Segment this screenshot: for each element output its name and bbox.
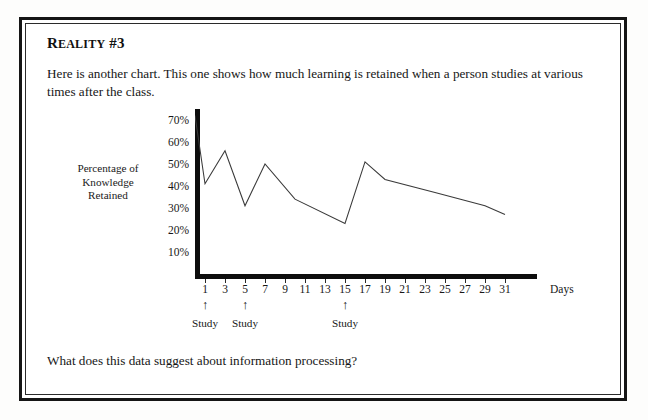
study-label: Study [332, 317, 358, 329]
y-axis-tick-label: 40% [168, 180, 189, 192]
y-axis-tick-labels: 70%60%50%40%30%20%10% [149, 107, 189, 277]
page-title-initial: R [47, 35, 58, 51]
y-axis-tick-label: 10% [168, 246, 189, 258]
x-axis-tick-label: 9 [282, 283, 288, 295]
y-axis-tick-label: 50% [168, 158, 189, 170]
y-axis-title-line-2: Knowledge [67, 176, 149, 190]
up-arrow-icon: ↑ [342, 299, 348, 311]
study-label: Study [192, 317, 218, 329]
y-axis-tick-label: 20% [168, 224, 189, 236]
y-axis-tick-label: 30% [168, 202, 189, 214]
x-axis-title: Days [550, 283, 574, 295]
retention-line-chart: Percentage of Knowledge Retained 70%60%5… [45, 107, 575, 337]
x-axis-tick-label: 25 [439, 283, 451, 295]
up-arrow-icon: ↑ [202, 299, 208, 311]
x-axis-tick-label: 19 [379, 283, 391, 295]
plot-area [195, 107, 540, 279]
worksheet-page: REALITY #3 Here is another chart. This o… [0, 0, 648, 420]
x-axis-tick-label: 21 [399, 283, 411, 295]
y-axis-title-line-3: Retained [67, 189, 149, 203]
page-title-smallcaps: EALITY [58, 37, 105, 51]
x-axis-tick-label: 5 [242, 283, 248, 295]
y-axis-title: Percentage of Knowledge Retained [67, 162, 149, 203]
y-axis-tick-label: 60% [168, 136, 189, 148]
x-axis-tick-label: 1 [202, 283, 208, 295]
discussion-question: What does this data suggest about inform… [47, 353, 587, 369]
study-event-annotations: ↑Study↑Study↑Study [195, 299, 575, 339]
x-axis-tick-label: 29 [479, 283, 491, 295]
x-axis-tick-label: 17 [359, 283, 371, 295]
retention-line-series [195, 107, 540, 279]
x-axis-tick-label: 7 [262, 283, 268, 295]
x-axis-tick-label: 31 [499, 283, 511, 295]
page-content: REALITY #3 Here is another chart. This o… [25, 23, 621, 395]
x-axis-tick-label: 11 [299, 283, 310, 295]
x-axis-tick-labels: Days 135791113151719212325272931 [195, 283, 575, 299]
page-title-number: #3 [105, 35, 124, 51]
up-arrow-icon: ↑ [242, 299, 248, 311]
intro-paragraph: Here is another chart. This one shows ho… [47, 65, 587, 100]
page-title: REALITY #3 [47, 35, 125, 52]
x-axis-tick-label: 27 [459, 283, 471, 295]
x-axis-tick-label: 23 [419, 283, 431, 295]
x-axis-tick-label: 13 [319, 283, 331, 295]
y-axis-title-line-1: Percentage of [67, 162, 149, 176]
y-axis-tick-label: 70% [168, 114, 189, 126]
x-axis-tick-label: 15 [339, 283, 351, 295]
study-label: Study [232, 317, 258, 329]
x-axis-tick-label: 3 [222, 283, 228, 295]
